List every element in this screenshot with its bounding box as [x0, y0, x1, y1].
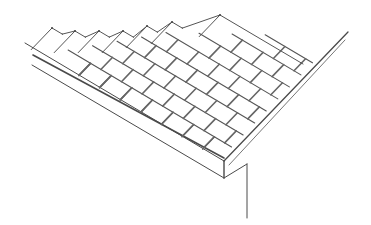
shingle-tab-joint [272, 65, 284, 77]
shingle-nail-dot [146, 25, 148, 27]
shingle-stack-edge [126, 26, 147, 48]
shingle-nail-dot [51, 27, 53, 29]
shingle-nail-dot [171, 21, 173, 23]
shingle-tab-joint [187, 52, 199, 64]
shingle-tab-joint [207, 82, 219, 94]
shingle-tab-joint [162, 112, 174, 124]
shingle-tab-joint [204, 119, 216, 131]
shingle-tab-joint [163, 94, 175, 106]
shingle-course-line [68, 50, 231, 147]
shingle-tab-joint [123, 52, 135, 64]
shingle-tab-joint [203, 137, 215, 149]
shingle-tab-joint [101, 57, 113, 69]
shingle-step-top [75, 31, 85, 37]
drawing-canvas [0, 0, 371, 225]
shingle-tab-joint [166, 40, 178, 52]
shingle-tab-joint [79, 63, 91, 75]
shingle-tab-joint [228, 76, 240, 88]
shingle-nail-dot [219, 14, 221, 16]
fascia-return-edge [224, 164, 247, 178]
shingle-tab-joint [250, 71, 262, 83]
shingle-top-staircase [31, 14, 303, 64]
shingle-step-top [99, 31, 109, 37]
shingle-nail-dot [74, 30, 76, 32]
shingle-tab-joint [145, 46, 157, 58]
shingle-tab-joint [231, 40, 243, 52]
shingle-tab-joint [226, 113, 238, 125]
shingle-tab-joint [251, 52, 263, 64]
shingle-tab-joint [225, 131, 237, 143]
shingle-step-rise [157, 22, 172, 32]
shingle-nail-dot [98, 30, 100, 32]
shingle-step-rise [85, 31, 99, 37]
shingle-tab-joint [100, 76, 112, 88]
shingle-stack-edge [54, 31, 75, 53]
shingle-tab-joint [249, 89, 261, 101]
shingle-tab-joint [164, 76, 176, 88]
roof-corner-diagram [0, 0, 371, 225]
top-shingle-upper-edge [220, 15, 303, 64]
shingle-tab-joint [294, 59, 306, 71]
shingle-nail-dot [122, 30, 124, 32]
shingle-course-line [142, 37, 267, 111]
shingle-step-rise [109, 31, 123, 37]
shingle-tab-joint [205, 100, 217, 112]
shingle-step-top [147, 26, 157, 32]
shingle-tab-joint [230, 58, 242, 70]
shingle-tab-joint [227, 95, 239, 107]
roof-outline [25, 32, 348, 218]
shingle-tab-joint [165, 58, 177, 70]
shingle-tab-joint [185, 88, 197, 100]
shingle-tab-joint [208, 64, 220, 76]
rake-inner-edge [229, 40, 345, 165]
shingle-tab-joint [182, 125, 194, 137]
fascia-bottom-edge [32, 65, 224, 178]
shingle-course-line [93, 46, 244, 135]
shingle-step-top [172, 22, 182, 28]
shingle-tab-joint [121, 70, 133, 82]
shingle-step-top [123, 31, 133, 37]
shingle-tab-joint [141, 100, 153, 112]
shingle-tab-joint [248, 107, 260, 119]
shingle-tab-joint [143, 64, 155, 76]
shingle-tab-joint [271, 83, 283, 95]
shingle-stack-edge [151, 22, 172, 44]
shingle-tab-joint [183, 106, 195, 118]
shingle-tab-joint [120, 88, 132, 100]
shingle-stack-edge [31, 28, 52, 50]
shingle-tab-joint [209, 46, 221, 58]
shingle-tab-joint [186, 70, 198, 82]
shingle-tab-joint [142, 82, 154, 94]
shingle-step-top [52, 28, 62, 34]
